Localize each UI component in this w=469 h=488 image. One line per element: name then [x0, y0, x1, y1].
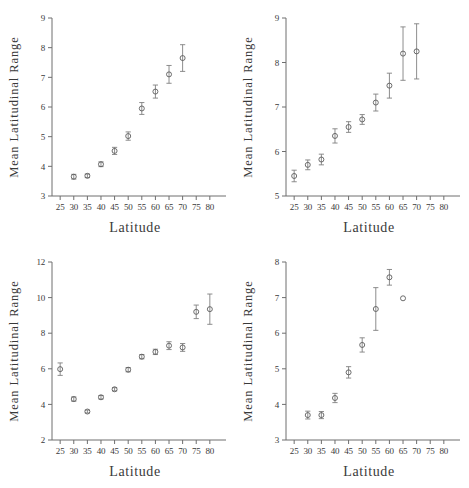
x-tick-label: 65	[399, 202, 408, 212]
y-tick-label: 10	[36, 293, 45, 303]
x-tick-label: 55	[371, 446, 380, 456]
panel-bottom-left: 24681012253035404550556065707580Latitude…	[0, 244, 234, 488]
y-tick-label: 7	[275, 102, 280, 112]
x-tick-label: 60	[151, 202, 160, 212]
x-tick-label: 50	[358, 202, 367, 212]
x-tick-label: 45	[344, 202, 353, 212]
x-tick-label: 70	[412, 446, 421, 456]
y-tick-label: 9	[275, 13, 280, 23]
x-tick-label: 50	[124, 446, 133, 456]
y-tick-label: 6	[41, 102, 46, 112]
y-tick-label: 6	[41, 364, 46, 374]
x-tick-label: 30	[69, 202, 78, 212]
y-tick-label: 12	[36, 257, 45, 267]
y-tick-label: 7	[41, 73, 46, 83]
x-axis-title: Latitude	[109, 464, 160, 479]
x-tick-label: 75	[192, 446, 201, 456]
y-tick-label: 4	[41, 400, 46, 410]
x-tick-label: 50	[124, 202, 133, 212]
y-tick-label: 2	[41, 435, 45, 445]
data-series	[58, 294, 213, 414]
four-panel-scatter-figure: 3456789253035404550556065707580LatitudeM…	[0, 0, 469, 488]
y-axis-title: Mean Latitudinal Range	[241, 280, 255, 421]
x-tick-label: 25	[56, 202, 65, 212]
panel-top-left: 3456789253035404550556065707580LatitudeM…	[0, 0, 234, 244]
x-tick-label: 40	[331, 202, 340, 212]
x-tick-label: 45	[344, 446, 353, 456]
x-tick-label: 80	[440, 446, 449, 456]
x-tick-label: 75	[426, 202, 435, 212]
data-series	[305, 269, 405, 419]
x-tick-label: 35	[83, 446, 92, 456]
y-tick-label: 6	[275, 328, 280, 338]
y-tick-label: 8	[275, 257, 280, 267]
x-axis-title: Latitude	[343, 220, 394, 235]
data-series	[71, 45, 185, 180]
panel-top-right: 56789253035404550556065707580LatitudeMea…	[234, 0, 469, 244]
y-tick-label: 5	[275, 364, 280, 374]
y-tick-label: 4	[275, 400, 280, 410]
x-tick-label: 70	[178, 446, 187, 456]
x-tick-label: 65	[165, 202, 174, 212]
x-tick-label: 75	[192, 202, 201, 212]
x-tick-label: 45	[110, 446, 119, 456]
y-tick-label: 9	[41, 13, 46, 23]
data-series	[292, 24, 420, 182]
x-tick-label: 65	[165, 446, 174, 456]
x-tick-label: 25	[290, 202, 299, 212]
x-tick-label: 50	[358, 446, 367, 456]
x-tick-label: 45	[110, 202, 119, 212]
x-tick-label: 30	[69, 446, 78, 456]
data-point-marker	[401, 296, 406, 301]
y-tick-label: 5	[41, 132, 46, 142]
panel-bottom-left-canvas: 24681012253035404550556065707580Latitude…	[0, 244, 234, 488]
x-tick-label: 55	[137, 446, 146, 456]
x-tick-label: 60	[385, 446, 394, 456]
x-tick-label: 55	[137, 202, 146, 212]
x-tick-label: 80	[206, 202, 215, 212]
y-axis-title: Mean Latitudinal Range	[241, 36, 255, 177]
x-tick-label: 40	[97, 202, 106, 212]
x-tick-label: 80	[206, 446, 215, 456]
x-tick-label: 25	[56, 446, 65, 456]
x-tick-label: 70	[412, 202, 421, 212]
x-tick-label: 80	[440, 202, 449, 212]
x-tick-label: 40	[331, 446, 340, 456]
panel-top-left-canvas: 3456789253035404550556065707580LatitudeM…	[0, 0, 234, 244]
x-tick-label: 30	[303, 202, 312, 212]
y-axis-title: Mean Latitudinal Range	[7, 280, 21, 421]
panel-bottom-right: 345678253035404550556065707580LatitudeMe…	[234, 244, 469, 488]
x-tick-label: 60	[385, 202, 394, 212]
y-tick-label: 3	[41, 191, 46, 201]
x-tick-label: 65	[399, 446, 408, 456]
x-tick-label: 35	[317, 202, 326, 212]
y-tick-label: 5	[275, 191, 280, 201]
y-tick-label: 4	[41, 162, 46, 172]
x-tick-label: 75	[426, 446, 435, 456]
y-tick-label: 8	[41, 43, 46, 53]
panel-top-right-canvas: 56789253035404550556065707580LatitudeMea…	[234, 0, 468, 244]
x-tick-label: 35	[317, 446, 326, 456]
x-tick-label: 30	[303, 446, 312, 456]
x-tick-label: 70	[178, 202, 187, 212]
x-tick-label: 40	[97, 446, 106, 456]
x-tick-label: 55	[371, 202, 380, 212]
y-tick-label: 6	[275, 147, 280, 157]
x-axis-title: Latitude	[343, 464, 394, 479]
panel-bottom-right-canvas: 345678253035404550556065707580LatitudeMe…	[234, 244, 468, 488]
y-axis-title: Mean Latitudinal Range	[7, 36, 21, 177]
y-tick-label: 8	[41, 328, 46, 338]
x-tick-label: 35	[83, 202, 92, 212]
y-tick-label: 8	[275, 58, 280, 68]
x-tick-label: 60	[151, 446, 160, 456]
x-axis-title: Latitude	[109, 220, 160, 235]
y-tick-label: 3	[275, 435, 280, 445]
y-tick-label: 7	[275, 293, 280, 303]
x-tick-label: 25	[290, 446, 299, 456]
